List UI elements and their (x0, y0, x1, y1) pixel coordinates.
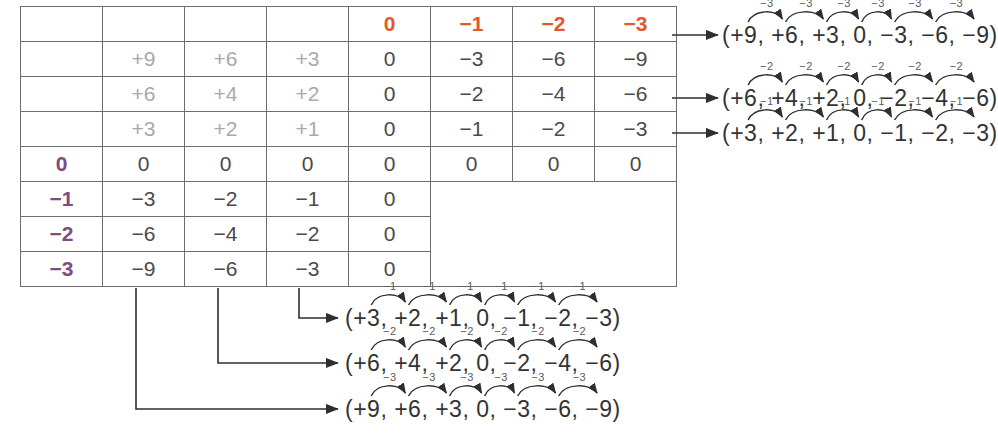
svg-text:−2: −2 (837, 60, 851, 72)
column-connector-3 (136, 288, 338, 409)
svg-text:−1: −1 (871, 95, 885, 107)
column-annotation-2-arcs: −2−2−2−2−2−2 (345, 328, 625, 354)
svg-text:−3: −3 (799, 0, 813, 9)
svg-text:−1: −1 (422, 280, 436, 292)
svg-text:−3: −3 (908, 0, 922, 9)
svg-text:−3: −3 (460, 371, 474, 383)
svg-text:−3: −3 (494, 371, 508, 383)
svg-text:−2: −2 (908, 60, 922, 72)
svg-text:−2: −2 (573, 325, 587, 337)
svg-text:−1: −1 (383, 280, 397, 292)
svg-text:−2: −2 (494, 325, 508, 337)
svg-text:−2: −2 (799, 60, 813, 72)
column-connector-1 (299, 288, 338, 318)
svg-text:−1: −1 (760, 95, 774, 107)
svg-text:−1: −1 (799, 95, 813, 107)
row-annotation-2-arcs: −2−2−2−2−2−2 (722, 63, 982, 89)
svg-text:−3: −3 (837, 0, 851, 9)
svg-text:−3: −3 (422, 371, 436, 383)
svg-text:−2: −2 (383, 325, 397, 337)
column-annotation-1-arcs: −1−1−1−1−1−1 (345, 283, 625, 309)
svg-text:−3: −3 (573, 371, 587, 383)
svg-text:−1: −1 (950, 95, 964, 107)
column-connector-2 (218, 288, 338, 363)
svg-text:−3: −3 (383, 371, 397, 383)
svg-text:−2: −2 (422, 325, 436, 337)
column-annotation-3: −3−3−3−3−3−3 (+9, +6, +3, 0, −3, −6, −9) (345, 396, 621, 423)
svg-text:−3: −3 (871, 0, 885, 9)
svg-text:−3: −3 (950, 0, 964, 9)
column-annotation-3-arcs: −3−3−3−3−3−3 (345, 374, 625, 400)
svg-text:−2: −2 (950, 60, 964, 72)
svg-text:−1: −1 (531, 280, 545, 292)
svg-text:−2: −2 (531, 325, 545, 337)
row-annotation-3-arcs: −3−3−3−3−3−3 (722, 0, 982, 26)
svg-text:−3: −3 (760, 0, 774, 9)
row-annotation-1: −1−1−1−1−1−1 (+3, +2, +1, 0, −1, −2, −3) (722, 120, 998, 147)
svg-text:−1: −1 (573, 280, 587, 292)
svg-text:−1: −1 (837, 95, 851, 107)
svg-text:−3: −3 (531, 371, 545, 383)
svg-text:−1: −1 (494, 280, 508, 292)
svg-text:−1: −1 (460, 280, 474, 292)
svg-text:−2: −2 (460, 325, 474, 337)
svg-text:−2: −2 (760, 60, 774, 72)
row-annotation-1-arcs: −1−1−1−1−1−1 (722, 98, 982, 124)
svg-text:−2: −2 (871, 60, 885, 72)
svg-text:−1: −1 (908, 95, 922, 107)
row-annotation-3: −3−3−3−3−3−3 (+9, +6, +3, 0, −3, −6, −9) (722, 22, 998, 49)
